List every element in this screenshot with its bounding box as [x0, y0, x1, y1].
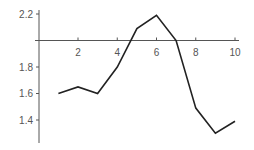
series-line [58, 15, 235, 133]
y-axis: 1.41.61.82.2 [19, 9, 39, 144]
y-tick-label: 2.2 [19, 9, 33, 20]
x-tick-label: 10 [229, 47, 241, 58]
y-tick-label: 1.6 [19, 88, 33, 99]
x-tick-label: 6 [154, 47, 160, 58]
line-chart: 1.41.61.82.2 246810 [0, 0, 254, 150]
x-tick-label: 8 [193, 47, 199, 58]
y-tick-label: 1.4 [19, 115, 33, 126]
x-tick-label: 4 [114, 47, 120, 58]
y-tick-label: 1.8 [19, 62, 33, 73]
x-tick-label: 2 [75, 47, 81, 58]
data-series [58, 15, 235, 133]
x-axis: 246810 [35, 38, 241, 58]
